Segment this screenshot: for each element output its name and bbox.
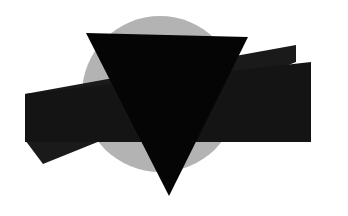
- abstract-composition-svg: [0, 0, 348, 216]
- artwork-canvas: Abstract Geometric Composition A light g…: [0, 0, 348, 216]
